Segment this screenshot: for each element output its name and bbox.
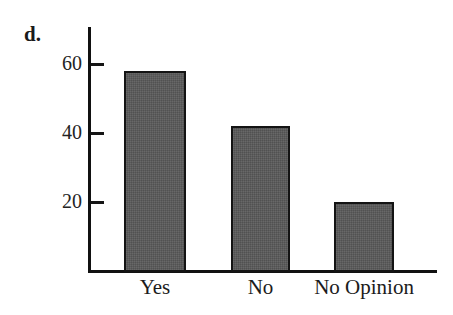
x-axis-category-label: No Opinion: [314, 277, 414, 298]
y-axis-tick: [91, 63, 104, 66]
bar: [334, 202, 394, 272]
y-axis-tick: [91, 132, 104, 135]
y-axis-tick-label: 40: [34, 122, 82, 142]
bar: [231, 126, 290, 272]
y-tick-label-wrap: 20: [34, 191, 82, 211]
y-axis-tick-label: 20: [34, 191, 82, 211]
x-axis-category-label: No: [248, 277, 274, 298]
bar-chart-figure: d. 20 40 60 Yes No No Opinion: [0, 0, 453, 315]
y-axis-tick-label: 60: [34, 53, 82, 73]
bar: [124, 71, 186, 272]
y-tick-label-wrap: 60: [34, 53, 82, 73]
bar-texture: [336, 204, 392, 270]
y-tick-label-wrap: 40: [34, 122, 82, 142]
bar-texture: [126, 73, 184, 270]
bar-texture: [233, 128, 288, 270]
y-axis-tick: [91, 201, 104, 204]
plot-area: 20 40 60 Yes No No Opinion: [0, 0, 453, 315]
x-axis-category-label: Yes: [140, 277, 171, 298]
